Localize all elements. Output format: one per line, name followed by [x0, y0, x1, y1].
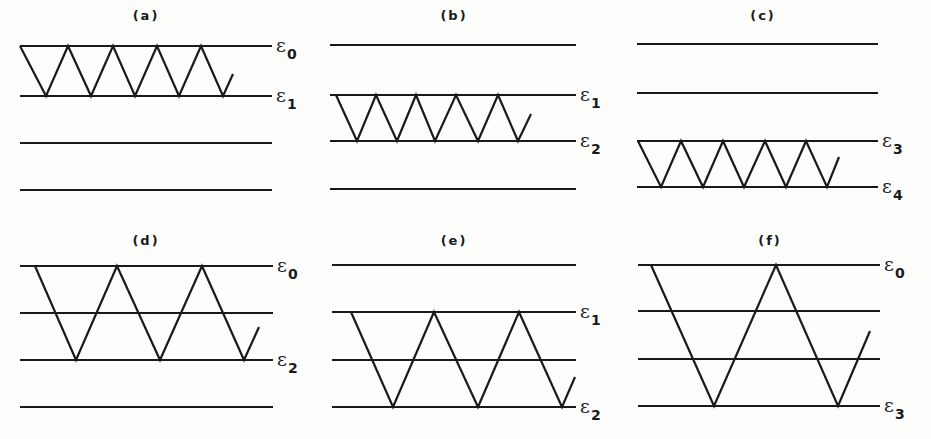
epsilon-subscript: 2 [288, 360, 298, 376]
epsilon-level-label: ε [277, 348, 287, 370]
panel-label: (c) [750, 8, 776, 23]
figure-canvas: (a)ε0ε1(b)ε1ε2(c)ε3ε4(d)ε0ε2(e)ε1ε2(f)ε0… [0, 0, 931, 439]
epsilon-level-label: ε [276, 34, 286, 56]
zigzag-trajectory [651, 265, 870, 406]
epsilon-level-label: ε [882, 175, 892, 197]
panel-label: (d) [132, 233, 159, 248]
epsilon-subscript: 2 [591, 407, 601, 423]
epsilon-subscript: 1 [287, 96, 297, 112]
epsilon-level-label: ε [277, 254, 287, 276]
epsilon-level-label: ε [884, 253, 894, 275]
panel-a: (a)ε0ε1 [20, 8, 297, 191]
epsilon-level-label: ε [580, 300, 590, 322]
panel-label: (a) [133, 8, 160, 23]
epsilon-subscript: 0 [288, 266, 298, 282]
epsilon-level-label: ε [884, 394, 894, 416]
epsilon-subscript: 2 [591, 141, 601, 157]
panel-e: (e)ε1ε2 [332, 233, 601, 424]
epsilon-level-label: ε [276, 84, 286, 106]
energy-level-zigzag-figure: (a)ε0ε1(b)ε1ε2(c)ε3ε4(d)ε0ε2(e)ε1ε2(f)ε0… [0, 0, 931, 439]
panel-d: (d)ε0ε2 [20, 233, 298, 408]
epsilon-subscript: 1 [591, 312, 601, 328]
epsilon-subscript: 4 [893, 187, 903, 203]
zigzag-trajectory [336, 95, 531, 141]
panel-label: (b) [440, 8, 467, 23]
epsilon-subscript: 0 [895, 265, 905, 281]
panel-c: (c)ε3ε4 [637, 8, 903, 204]
epsilon-subscript: 3 [893, 141, 903, 157]
epsilon-level-label: ε [580, 129, 590, 151]
epsilon-level-label: ε [580, 83, 590, 105]
panel-label: (f) [758, 233, 782, 248]
panel-b: (b)ε1ε2 [330, 8, 601, 190]
epsilon-level-label: ε [580, 395, 590, 417]
epsilon-subscript: 0 [287, 46, 297, 62]
panel-f: (f)ε0ε3 [638, 233, 905, 423]
zigzag-trajectory [638, 141, 839, 187]
epsilon-level-label: ε [882, 129, 892, 151]
panel-label: (e) [441, 233, 468, 248]
zigzag-trajectory [20, 46, 233, 96]
epsilon-subscript: 3 [895, 406, 905, 422]
epsilon-subscript: 1 [591, 95, 601, 111]
